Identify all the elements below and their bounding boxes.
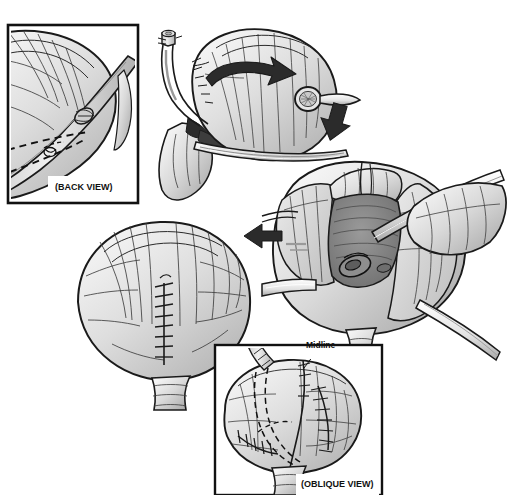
midline-label: Midline [306,340,335,350]
oblique-view-label: (OBLIQUE VIEW) [301,479,374,489]
oblique-view-inset [215,340,382,495]
back-view-inset [0,25,138,203]
back-view-label: (BACK VIEW) [55,182,113,192]
surgical-illustration-plate [0,0,514,495]
